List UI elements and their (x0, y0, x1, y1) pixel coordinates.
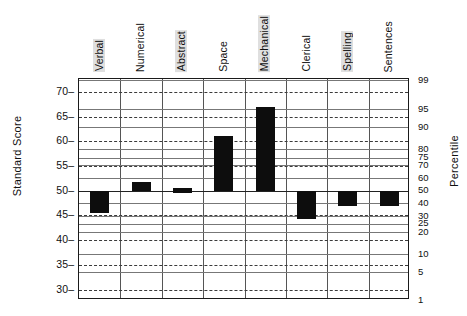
tick-dash-icon: – (68, 209, 74, 219)
tick-dash-icon: – (68, 111, 74, 121)
percentile-gridline (79, 165, 408, 166)
bar-clerical (297, 191, 316, 219)
category-label-mechanical: Mechanical (258, 15, 270, 72)
right-tick-label: 40 (418, 198, 429, 207)
category-label-clerical: Clerical (300, 35, 312, 72)
left-tick-label: 50 – (56, 185, 74, 195)
right-tick-label: 70 (418, 160, 429, 169)
horizontal-gridline (79, 265, 408, 266)
horizontal-gridline (79, 166, 408, 167)
left-tick-value: 70 (56, 85, 68, 97)
left-tick-label: 65 – (56, 111, 74, 121)
left-axis-title: Standard Score (11, 91, 23, 221)
category-label-spelling: Spelling (341, 31, 353, 72)
right-axis: Percentile 9995908075706050403025201051 (409, 0, 467, 316)
tick-dash-icon: – (68, 86, 74, 96)
horizontal-gridline (79, 117, 408, 118)
right-tick-label: 99 (418, 75, 429, 84)
left-tick-label: 40 – (56, 234, 74, 244)
left-tick-value: 60 (56, 134, 68, 146)
left-tick-value: 55 (56, 159, 68, 171)
bar-numerical (132, 182, 151, 190)
percentile-gridline (79, 203, 408, 204)
left-tick-value: 50 (56, 184, 68, 196)
percentile-gridline (79, 127, 408, 128)
horizontal-gridline (79, 240, 408, 241)
right-tick-label: 5 (418, 267, 423, 276)
tick-dash-icon: – (68, 234, 74, 244)
right-axis-title: Percentile (448, 106, 460, 216)
right-tick-label: 90 (418, 122, 429, 131)
category-label-verbal: Verbal (93, 39, 105, 72)
horizontal-gridline (79, 141, 408, 142)
right-tick-label: 10 (418, 249, 429, 258)
left-tick-value: 30 (56, 283, 68, 295)
percentile-gridline (79, 216, 408, 217)
percentile-gridline (79, 178, 408, 179)
right-tick-label: 50 (418, 185, 429, 194)
category-labels: VerbalNumericalAbstractSpaceMechanicalCl… (78, 0, 409, 78)
category-label-numerical: Numerical (134, 23, 146, 72)
plot-area (78, 78, 409, 299)
tick-dash-icon: – (68, 185, 74, 195)
left-tick-label: 70 – (56, 86, 74, 96)
left-tick-value: 45 (56, 208, 68, 220)
percentile-gridline (79, 80, 408, 81)
percentile-gridline (79, 158, 408, 159)
horizontal-gridline (79, 191, 408, 192)
left-tick-label: 55 – (56, 160, 74, 170)
right-tick-label: 60 (418, 173, 429, 182)
bar-abstract (173, 188, 192, 193)
left-tick-label: 35 – (56, 259, 74, 269)
bar-sentences (380, 191, 399, 206)
horizontal-gridline (79, 290, 408, 291)
left-tick-label: 30 – (56, 284, 74, 294)
percentile-gridline (79, 224, 408, 225)
bar-mechanical (256, 107, 275, 191)
bar-verbal (90, 191, 109, 213)
right-tick-label: 20 (418, 227, 429, 236)
percentile-gridline (79, 109, 408, 110)
percentile-gridline (79, 254, 408, 255)
left-tick-value: 65 (56, 110, 68, 122)
category-label-sentences: Sentences (382, 21, 394, 72)
tick-dash-icon: – (68, 259, 74, 269)
percentile-gridline (79, 149, 408, 150)
tick-dash-icon: – (68, 284, 74, 294)
percentile-gridline (79, 272, 408, 273)
left-tick-label: 60 – (56, 135, 74, 145)
bar-spelling (338, 191, 357, 206)
left-tick-value: 35 (56, 258, 68, 270)
aptitude-profile-chart: Standard Score 70 –65 –60 –55 –50 –45 –4… (0, 0, 467, 316)
category-label-abstract: Abstract (175, 30, 187, 72)
tick-dash-icon: – (68, 160, 74, 170)
percentile-gridline (79, 232, 408, 233)
right-tick-label: 95 (418, 104, 429, 113)
category-label-space: Space (217, 41, 229, 72)
right-tick-label: 1 (418, 295, 423, 304)
horizontal-gridline (79, 92, 408, 93)
tick-dash-icon: – (68, 135, 74, 145)
left-tick-label: 45 – (56, 209, 74, 219)
bar-space (214, 136, 233, 190)
left-tick-value: 40 (56, 233, 68, 245)
left-axis: Standard Score 70 –65 –60 –55 –50 –45 –4… (0, 0, 78, 316)
